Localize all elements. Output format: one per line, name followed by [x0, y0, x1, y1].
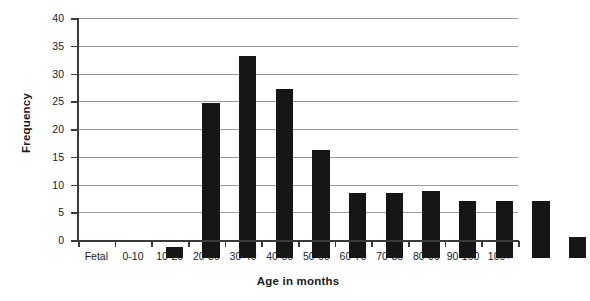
y-axis-tick: [71, 46, 77, 48]
y-axis-tick: [71, 212, 77, 214]
x-axis-tick-label: 0-10: [122, 250, 143, 262]
x-axis-tick-label: 10-20: [156, 250, 183, 262]
y-axis-tick: [71, 240, 77, 242]
bar: [239, 56, 257, 258]
y-axis-line: [77, 18, 79, 241]
x-axis-tick: [115, 241, 117, 247]
y-axis-tick-label: 5: [24, 206, 64, 218]
y-axis-tick: [71, 157, 77, 159]
x-axis-tick-label: 100+: [488, 250, 512, 262]
x-axis-tick-label: 30-40: [230, 250, 257, 262]
y-axis-tick: [71, 74, 77, 76]
gridline: [78, 18, 518, 19]
y-axis-tick: [71, 185, 77, 187]
x-axis-tick: [408, 241, 410, 247]
x-axis-tick: [335, 241, 337, 247]
x-axis-tick-label: 60-70: [340, 250, 367, 262]
x-axis-tick: [78, 241, 80, 247]
y-axis-tick: [71, 18, 77, 20]
x-axis-title: Age in months: [78, 275, 518, 287]
x-axis-tick-label: 20-30: [193, 250, 220, 262]
bar: [349, 193, 367, 258]
bar: [532, 201, 550, 258]
bar: [276, 89, 294, 258]
y-axis-tick-label: 10: [24, 179, 64, 191]
y-axis-tick-label: 35: [24, 40, 64, 52]
y-axis-tick-label: 15: [24, 151, 64, 163]
bar: [202, 103, 220, 258]
bar: [422, 191, 440, 258]
bar: [569, 237, 587, 258]
x-axis-tick: [518, 241, 520, 247]
bar: [386, 193, 404, 258]
y-axis-tick-label: 40: [24, 12, 64, 24]
x-axis-tick: [225, 241, 227, 247]
y-axis-tick-label: 25: [24, 95, 64, 107]
x-axis-tick-label: 70-80: [376, 250, 403, 262]
x-axis-tick-label: Fetal: [85, 250, 108, 262]
x-axis-tick: [188, 241, 190, 247]
bar: [312, 150, 330, 258]
x-axis-tick: [481, 241, 483, 247]
y-axis-tick-label: 0: [24, 234, 64, 246]
y-axis-tick: [71, 101, 77, 103]
x-axis-tick: [151, 241, 153, 247]
y-axis-tick: [71, 129, 77, 131]
y-axis-tick-label: 20: [24, 123, 64, 135]
bars-layer: [156, 36, 590, 258]
x-axis-tick-label: 90-100: [447, 250, 480, 262]
x-axis-tick: [261, 241, 263, 247]
x-axis-tick-label: 50-60: [303, 250, 330, 262]
x-axis-tick: [298, 241, 300, 247]
x-axis-tick-label: 40-50: [266, 250, 293, 262]
y-axis-tick-label: 30: [24, 68, 64, 80]
x-axis-tick: [445, 241, 447, 247]
x-axis-tick-label: 80-90: [413, 250, 440, 262]
plot-area: [78, 18, 518, 240]
x-axis-tick: [371, 241, 373, 247]
